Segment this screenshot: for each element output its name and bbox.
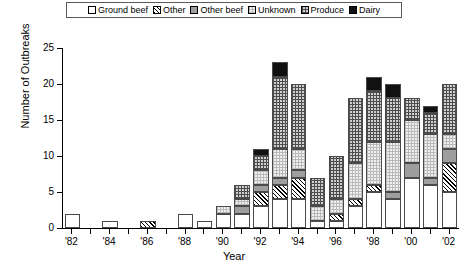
bar-segment-groundbeef [329,221,344,228]
bar-00 [404,98,419,228]
otherbeef-swatch-icon [190,6,198,14]
bar-99 [385,84,400,228]
x-tick-label: '96 [329,237,342,247]
x-tick [109,229,110,234]
bar-segment-groundbeef [366,192,381,228]
bar-segment-produce [442,84,457,134]
x-tick [373,229,374,234]
x-axis-title: Year [0,250,468,262]
x-tick [71,229,72,234]
bar-88 [178,214,193,228]
x-tick-label: '02 [442,237,455,247]
bar-segment-other [253,192,268,206]
y-tick-label: 0 [48,223,54,233]
bar-98 [366,77,381,228]
bar-segment-dairy [253,149,268,156]
bar-93 [272,62,287,228]
legend-item-label: Unknown [258,6,296,15]
y-tick-label: 25 [43,43,54,53]
x-tick [430,229,431,234]
bar-segment-unknown [348,163,363,199]
bar-84 [102,221,117,228]
x-tick [166,229,167,234]
bar-segment-unknown [234,199,249,206]
bar-segment-unknown [442,134,457,148]
bar-segment-other [329,214,344,221]
bar-01 [423,106,438,228]
bar-segment-unknown [423,134,438,177]
bar-segment-groundbeef [423,185,438,228]
x-tick-label: '82 [65,237,78,247]
legend-item-unknown[interactable]: Unknown [248,6,296,15]
bar-segment-otherbeef [423,178,438,185]
bar-95 [310,178,325,228]
bar-89 [197,221,212,228]
legend-item-otherbeef[interactable]: Other beef [190,6,243,15]
unknown-swatch-icon [248,6,256,14]
legend-item-label: Produce [311,6,345,15]
plot-area [62,48,459,229]
bar-segment-unknown [253,170,268,184]
bar-segment-unknown [385,142,400,192]
bar-segment-otherbeef [234,206,249,213]
bar-segment-produce [234,185,249,199]
bar-segment-other [348,199,363,206]
y-tick-label: 10 [43,151,54,161]
x-tick [279,229,280,234]
bar-segment-produce [291,84,306,149]
bar-segment-produce [310,178,325,207]
x-tick [411,229,412,234]
x-tick-label: '00 [404,237,417,247]
bar-segment-unknown [404,120,419,163]
bar-segment-other [442,163,457,192]
bar-segment-otherbeef [291,170,306,177]
bar-segment-groundbeef [348,206,363,228]
bar-segment-groundbeef [102,221,117,228]
bar-segment-groundbeef [272,199,287,228]
bar-97 [348,98,363,228]
bar-segment-groundbeef [65,214,80,228]
x-tick [335,229,336,234]
bar-91 [234,185,249,228]
x-tick [449,229,450,234]
legend-item-label: Other beef [200,6,243,15]
bar-segment-dairy [272,62,287,76]
bar-segment-produce [329,156,344,199]
bar-segment-unknown [366,142,381,185]
bar-segment-groundbeef [404,178,419,228]
legend-item-groundbeef[interactable]: Ground beef [88,6,148,15]
bar-86 [140,221,155,228]
bar-02 [442,84,457,228]
legend-item-produce[interactable]: Produce [301,6,345,15]
bar-92 [253,149,268,228]
bar-segment-produce [404,98,419,120]
x-tick-label: '94 [291,237,304,247]
x-tick [260,229,261,234]
bar-segment-groundbeef [216,214,231,228]
bar-segment-dairy [385,84,400,98]
bar-segment-unknown [272,149,287,178]
x-tick [90,229,91,234]
x-tick [354,229,355,234]
bar-segment-dairy [423,106,438,113]
x-tick-label: '84 [103,237,116,247]
bar-segment-otherbeef [253,185,268,192]
x-tick-label: '98 [367,237,380,247]
x-tick-label: '86 [140,237,153,247]
bar-82 [65,214,80,228]
legend-item-other[interactable]: Other [153,6,186,15]
legend-item-dairy[interactable]: Dairy [349,6,380,15]
x-tick [298,229,299,234]
y-tick-label: 20 [43,79,54,89]
legend-item-label: Ground beef [98,6,148,15]
x-tick [128,229,129,234]
bar-segment-produce [348,98,363,163]
y-tick-label: 5 [48,187,54,197]
other-swatch-icon [153,6,161,14]
bar-segment-other [272,185,287,199]
bar-segment-groundbeef [310,221,325,228]
x-tick-label: '90 [216,237,229,247]
bar-segment-dairy [366,77,381,91]
x-tick [185,229,186,234]
bar-segment-otherbeef [385,192,400,199]
